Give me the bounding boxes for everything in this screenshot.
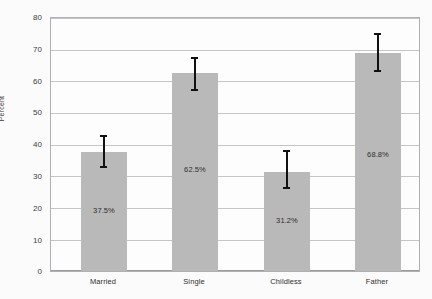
x-tick-label-single: Single: [149, 277, 239, 286]
bar-value-single: 62.5%: [172, 165, 218, 174]
errorbar-cap-top-father: [374, 33, 381, 35]
y-tick-label-60: 60: [16, 77, 42, 86]
plot-area: 37.5% 62.5% 31.2% 68.8%: [50, 17, 420, 272]
y-tick-label-70: 70: [16, 45, 42, 54]
errorbar-married: [103, 136, 105, 168]
errorbar-cap-bottom-single: [191, 89, 198, 91]
y-tick-label-10: 10: [16, 236, 42, 245]
errorbar-cap-bottom-father: [374, 70, 381, 72]
y-tick-label-30: 30: [16, 172, 42, 181]
errorbar-cap-bottom-childless: [283, 187, 290, 189]
errorbar-cap-bottom-married: [100, 166, 107, 168]
errorbar-cap-top-single: [191, 57, 198, 59]
y-tick-label-20: 20: [16, 204, 42, 213]
y-tick-label-80: 80: [16, 13, 42, 22]
chart-screenshot: Percent 80 70 60 50 40 30 20 10 0 37.5% …: [0, 0, 432, 299]
y-tick-label-40: 40: [16, 140, 42, 149]
gridline-70: [51, 50, 419, 51]
y-axis-title: Percent: [0, 64, 5, 154]
errorbar-childless: [286, 151, 288, 189]
gridline-80: [51, 18, 419, 19]
y-tick-label-50: 50: [16, 108, 42, 117]
errorbar-cap-top-childless: [283, 150, 290, 152]
x-tick-label-father: Father: [332, 277, 422, 286]
y-tick-label-0: 0: [16, 267, 42, 276]
x-tick-label-childless: Childless: [241, 277, 331, 286]
bar-value-childless: 31.2%: [264, 216, 310, 225]
bar-value-married: 37.5%: [81, 206, 127, 215]
errorbar-cap-top-married: [100, 135, 107, 137]
bar-value-father: 68.8%: [355, 150, 401, 159]
errorbar-father: [377, 34, 379, 72]
bar-father[interactable]: [355, 53, 401, 271]
x-tick-label-married: Married: [58, 277, 148, 286]
errorbar-single: [194, 58, 196, 91]
